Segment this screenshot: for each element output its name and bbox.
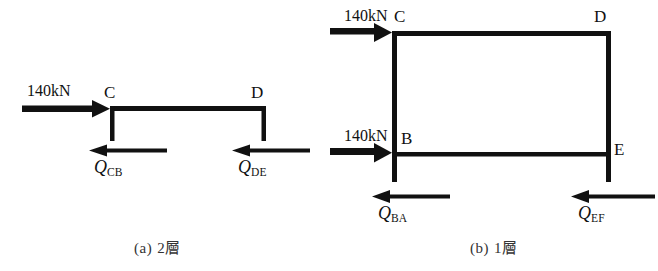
shear-arrow-ef [571, 190, 655, 203]
shear-symbol-q: Q [578, 203, 591, 223]
column-de [606, 31, 611, 182]
load-arrow-c [330, 23, 392, 42]
beam-be [392, 152, 611, 157]
joint-label-b: B [401, 130, 412, 147]
shear-arrow-ba [372, 190, 450, 203]
caption-index-b: (b) [470, 240, 489, 256]
force-label-140kn-b: 140kN [344, 128, 388, 144]
caption-panel-a: (a)2層 [134, 236, 180, 257]
shear-symbol-q: Q [378, 203, 391, 223]
column-stub-c [110, 106, 115, 141]
shear-subscript-cb: CB [107, 166, 123, 178]
joint-label-d: D [251, 84, 263, 101]
caption-text-a: 2層 [157, 240, 180, 256]
shear-label-qde: QDE [238, 158, 267, 176]
shear-arrow-cb [89, 145, 167, 157]
shear-symbol-q: Q [238, 157, 251, 177]
panel-a-drawing [0, 0, 330, 271]
force-label-140kn-c: 140kN [27, 83, 71, 99]
figure-root: 140kN C D QCB QDE (a)2層 [0, 0, 658, 271]
load-arrow-c [22, 100, 110, 118]
shear-label-qba: QBA [378, 204, 407, 222]
column-cb [392, 31, 397, 182]
joint-label-e: E [614, 141, 624, 158]
panel-storey-1: 140kN 140kN C D B E QBA QEF (b)1層 [330, 0, 658, 271]
shear-arrow-de [232, 145, 310, 157]
load-arrow-b [330, 143, 392, 163]
caption-index-a: (a) [134, 240, 152, 256]
force-label-140kn-c: 140kN [344, 8, 388, 24]
column-stub-d [262, 106, 267, 141]
beam-cd [110, 106, 266, 111]
caption-panel-b: (b)1層 [470, 236, 517, 257]
caption-text-b: 1層 [494, 240, 517, 256]
shear-subscript-ef: EF [591, 212, 605, 224]
beam-cd [392, 31, 611, 36]
shear-subscript-ba: BA [391, 212, 407, 224]
joint-label-d: D [594, 8, 606, 25]
shear-subscript-de: DE [251, 166, 267, 178]
joint-label-c: C [394, 8, 405, 25]
panel-storey-2: 140kN C D QCB QDE (a)2層 [0, 0, 330, 271]
shear-label-qcb: QCB [94, 158, 123, 176]
joint-label-c: C [104, 84, 115, 101]
shear-symbol-q: Q [94, 157, 107, 177]
shear-label-qef: QEF [578, 204, 605, 222]
